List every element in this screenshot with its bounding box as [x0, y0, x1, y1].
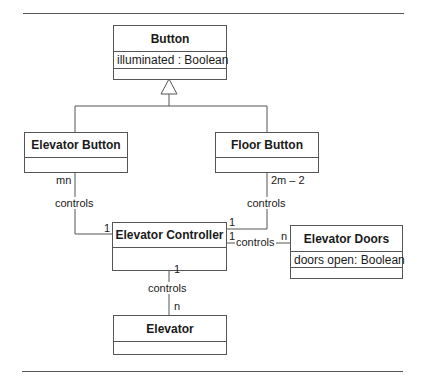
multiplicity-label: n — [281, 230, 287, 242]
multiplicity-label: mn — [56, 174, 71, 186]
class-name: Floor Button — [216, 133, 318, 158]
class-operations — [291, 268, 402, 280]
multiplicity-label: 1 — [174, 263, 180, 275]
class-operations — [114, 69, 226, 81]
class-button[interactable]: Button illuminated : Boolean — [113, 25, 227, 80]
multiplicity-label: n — [174, 300, 180, 312]
class-elevator-button[interactable]: Elevator Button — [24, 132, 128, 173]
class-elevator-controller[interactable]: Elevator Controller — [112, 222, 227, 271]
class-elevator[interactable]: Elevator — [113, 315, 227, 355]
class-name: Elevator — [114, 316, 226, 342]
association-label: controls — [148, 282, 187, 294]
class-name: Button — [114, 26, 226, 52]
association-label: controls — [55, 197, 94, 209]
association-label: controls — [247, 197, 286, 209]
class-body — [113, 248, 226, 271]
class-elevator-doors[interactable]: Elevator Doors doors open: Boolean — [290, 225, 403, 279]
class-body — [25, 158, 127, 173]
multiplicity-label: 1 — [104, 222, 110, 234]
generalization-arrow-icon — [161, 79, 177, 94]
class-name: Elevator Doors — [291, 226, 402, 252]
class-body — [216, 158, 318, 173]
class-name: Elevator Button — [25, 133, 127, 158]
class-name: Elevator Controller — [113, 223, 226, 248]
multiplicity-label: 1 — [229, 216, 235, 228]
association-label: controls — [235, 236, 276, 248]
class-floor-button[interactable]: Floor Button — [215, 132, 319, 173]
class-body — [114, 342, 226, 355]
multiplicity-label: 2m – 2 — [271, 174, 305, 186]
class-attribute: illuminated : Boolean — [114, 52, 226, 69]
class-attribute: doors open: Boolean — [291, 252, 402, 268]
